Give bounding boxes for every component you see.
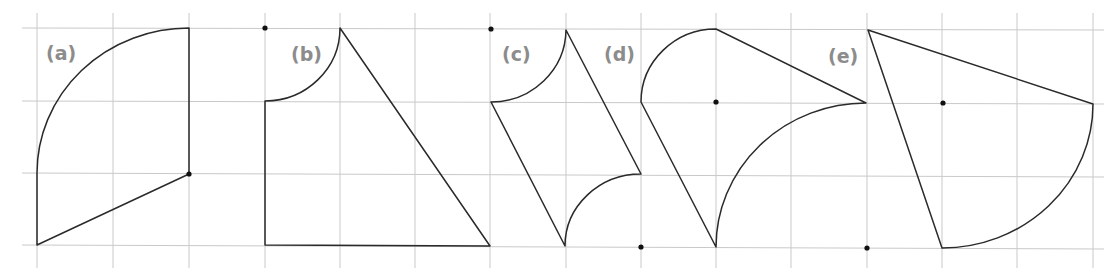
shape-d: (d) (604, 29, 866, 250)
label-d: (d) (604, 43, 635, 65)
center-dot (638, 244, 643, 249)
label-e: (e) (828, 45, 858, 67)
center-dot (186, 171, 191, 176)
shape-a: (a) (37, 28, 192, 245)
label-a: (a) (46, 42, 76, 64)
center-dot (713, 99, 718, 104)
label-c: (c) (502, 43, 531, 65)
center-dot (864, 245, 869, 250)
figure-canvas: (a) (b) (c) (d) (e) (0, 0, 1110, 272)
center-dot (262, 25, 267, 30)
shape-b: (b) (262, 25, 490, 246)
label-b: (b) (291, 43, 322, 65)
center-dot (940, 100, 945, 105)
center-dot (488, 26, 493, 31)
geometry-figure: (a) (b) (c) (d) (e) (0, 0, 1110, 272)
shape-e: (e) (828, 30, 1093, 251)
